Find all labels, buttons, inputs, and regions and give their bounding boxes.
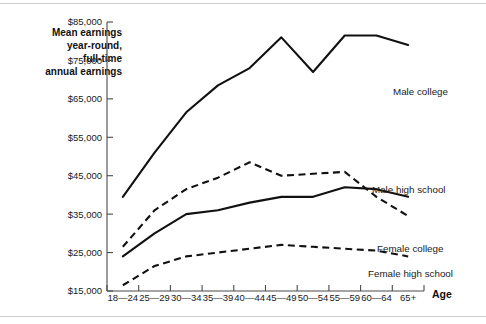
x-axis-tick-label: 45—49 [266,292,297,303]
x-axis-tick-label: 30—34 [171,292,202,303]
x-axis-tick-label: 35—39 [203,292,234,303]
y-axis-title-line-2: year-round, [67,40,122,51]
y-axis-tick-label: $25,000 [68,247,102,258]
y-axis-tick-label: $35,000 [68,209,102,220]
x-axis-tick-labels: 18—2425—2930—3435—3940—4445—4950—5455—59… [108,292,417,303]
x-axis-tick-label: 18—24 [108,292,139,303]
y-axis-tick-label: $75,000 [68,55,102,66]
y-axis-title-line-1: Mean earnings [52,27,122,38]
line-chart: Mean earnings year-round, full-time annu… [0,0,486,324]
x-axis-tick-label: 60—64 [361,292,392,303]
x-axis-ticks [107,285,424,291]
series-label-male-high-school: Male high school [372,184,446,195]
series-label-female-college: Female college [377,243,444,254]
series-labels: Male collegeMale high schoolFemale colle… [368,86,453,279]
series-line-female-high-school [123,245,408,285]
y-axis-tick-label: $15,000 [68,285,102,296]
y-axis-tick-label: $85,000 [68,16,102,27]
x-axis-title: Age [432,288,452,300]
top-divider-rule [0,3,486,4]
series-paths [123,35,408,285]
bottom-divider-rule [0,316,486,317]
x-axis-tick-label: 65+ [400,292,417,303]
y-axis-title: Mean earnings year-round, full-time annu… [45,27,122,77]
y-axis-tick-label: $55,000 [68,132,102,143]
y-axis-title-line-4: annual earnings [45,66,122,77]
series-label-male-college: Male college [393,86,449,97]
series-line-male-college [123,35,408,196]
x-axis-tick-label: 50—54 [298,292,329,303]
chart-figure: Mean earnings year-round, full-time annu… [0,0,486,324]
series-label-female-high-school: Female high school [368,268,453,279]
x-axis-tick-label: 55—59 [329,292,360,303]
y-axis-tick-label: $65,000 [68,93,102,104]
y-axis-tick-labels: $15,000$25,000$35,000$45,000$55,000$65,0… [68,16,102,296]
x-axis-tick-label: 40—44 [234,292,265,303]
y-axis-tick-label: $45,000 [68,170,102,181]
x-axis-tick-label: 25—29 [139,292,170,303]
series-line-female-college [123,162,408,247]
